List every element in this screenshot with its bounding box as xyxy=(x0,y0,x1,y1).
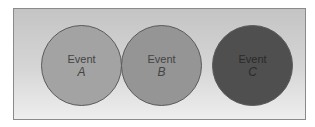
event-c-label: Event xyxy=(238,53,266,66)
event-a-label: Event xyxy=(67,53,95,66)
event-c-circle: Event C xyxy=(212,25,293,106)
diagram-frame: Event A Event B Event C xyxy=(13,8,306,120)
event-a-circle: Event A xyxy=(41,25,122,106)
event-b-variable: B xyxy=(157,66,165,79)
event-b-circle: Event B xyxy=(121,25,202,106)
event-a-variable: A xyxy=(77,66,85,79)
event-b-label: Event xyxy=(147,53,175,66)
event-c-variable: C xyxy=(248,66,257,79)
